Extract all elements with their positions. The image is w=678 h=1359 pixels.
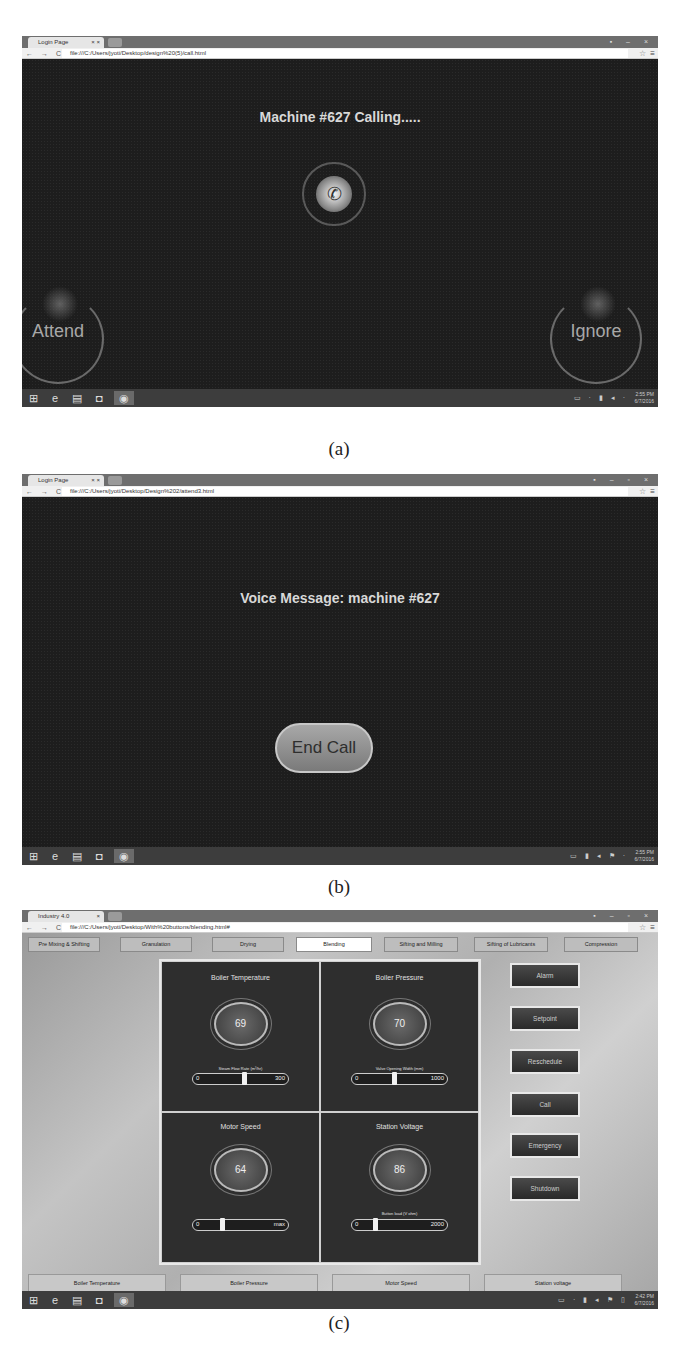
store-icon[interactable]: ◘ (92, 849, 106, 863)
voice-message-screen: Voice Message: machine #627 End Call (22, 497, 658, 847)
tab-title: Login Page (38, 477, 68, 483)
alarm-button[interactable]: Alarm (510, 963, 580, 988)
address-bar: ← → C file:///C:/Users/jyoti/Desktop/Wit… (22, 922, 658, 933)
url-input[interactable]: file:///C:/Users/jyoti/Desktop/Design%20… (62, 487, 628, 496)
ie-icon[interactable]: e (48, 849, 62, 863)
url-input[interactable]: file:///C:/Users/jyoti/Desktop/design%20… (62, 49, 628, 58)
start-icon[interactable]: ⊞ (26, 849, 40, 863)
call-title: Machine #627 Calling..... (22, 109, 658, 125)
chrome-icon[interactable]: ◉ (114, 391, 134, 405)
chrome-icon[interactable]: ◉ (114, 1293, 134, 1307)
nav-buttons[interactable]: ← → C (26, 486, 64, 497)
store-icon[interactable]: ◘ (92, 1293, 106, 1307)
browser-tab[interactable]: Login Page × × (28, 37, 104, 48)
browser-tab-bar: Login Page × × ▪ – × (22, 36, 658, 48)
tab-close-icon[interactable]: × (96, 911, 100, 922)
station-voltage-button[interactable]: Station voltage (484, 1274, 622, 1291)
store-icon[interactable]: ◘ (92, 391, 106, 405)
tab-close-icon[interactable]: × × (91, 37, 100, 48)
windows-taskbar: ⊞ e ▤ ◘ ◉ ▭ · ▮ ◂ · 2:55 PM 6/7/2016 (22, 389, 658, 407)
start-icon[interactable]: ⊞ (26, 391, 40, 405)
phone-icon: ✆ (316, 176, 352, 212)
file-explorer-icon[interactable]: ▤ (70, 391, 84, 405)
slider-min: 0 (196, 1220, 199, 1229)
call-button[interactable]: Call (510, 1092, 580, 1117)
boiler-pressure-button[interactable]: Boiler Pressure (180, 1274, 318, 1291)
clock: 2:42 PM 6/7/2016 (635, 1293, 654, 1307)
stage-tab-drying[interactable]: Drying (212, 937, 284, 952)
tab-close-icon[interactable]: × × (91, 475, 100, 486)
ignore-button[interactable]: Ignore (550, 294, 642, 384)
system-tray[interactable]: ▭ · ▮ ◂ ⚑ ▯ (558, 1291, 628, 1309)
slider-thumb[interactable] (373, 1218, 378, 1231)
stage-tab-sifting-milling[interactable]: Sifting and Milling (384, 937, 458, 952)
browser-menu-icon[interactable]: ≡ (650, 48, 655, 59)
window-controls[interactable]: ▪ – × (610, 36, 654, 48)
gauge-title: Motor Speed (162, 1123, 319, 1130)
stage-tab-compression[interactable]: Compression (564, 937, 638, 952)
attend-button[interactable]: Attend (22, 294, 104, 384)
browser-menu-icon[interactable]: ≡ (650, 922, 655, 933)
chrome-icon[interactable]: ◉ (114, 849, 134, 863)
tab-title: Login Page (38, 39, 68, 45)
window-controls[interactable]: ▪ – ▫ × (593, 910, 654, 922)
windows-taskbar: ⊞ e ▤ ◘ ◉ ▭ ▮ ◂ ⚑ · 2:55 PM 6/7/2016 (22, 847, 658, 865)
stage-tab-blending[interactable]: Blending (296, 937, 372, 952)
file-explorer-icon[interactable]: ▤ (70, 1293, 84, 1307)
call-screen: Machine #627 Calling..... ✆ Attend Ignor… (22, 59, 658, 389)
slider-max: 1000 (431, 1074, 444, 1083)
shutdown-button[interactable]: Shutdown (510, 1176, 580, 1201)
address-bar: ← → C file:///C:/Users/jyoti/Desktop/des… (22, 48, 658, 59)
setpoint-button[interactable]: Setpoint (510, 1006, 580, 1031)
system-tray[interactable]: ▭ · ▮ ◂ · (574, 389, 628, 407)
boiler-temperature-button[interactable]: Boiler Temperature (28, 1274, 166, 1291)
start-icon[interactable]: ⊞ (26, 1293, 40, 1307)
tab-title: Industry 4.0 (38, 913, 69, 919)
ie-icon[interactable]: e (48, 1293, 62, 1307)
slider-thumb[interactable] (220, 1218, 225, 1231)
url-input[interactable]: file:///C:/Users/jyoti/Desktop/With%20bu… (62, 923, 628, 932)
stage-tab-granulation[interactable]: Granulation (120, 937, 192, 952)
steam-flow-slider[interactable]: 0 300 (192, 1073, 289, 1085)
nav-buttons[interactable]: ← → C (26, 922, 64, 933)
stage-tab-pre-mixing[interactable]: Pre Mixing & Shifting (28, 937, 100, 952)
valve-opening-slider[interactable]: 0 1000 (351, 1073, 448, 1085)
caption-c: (c) (0, 1312, 678, 1334)
slider-thumb[interactable] (242, 1072, 247, 1085)
slider-thumb[interactable] (392, 1072, 397, 1085)
slider-max: 300 (275, 1074, 285, 1083)
motor-speed-button[interactable]: Motor Speed (332, 1274, 470, 1291)
gauge-station-voltage: Station Voltage 86 Button load (V ohm) 0… (320, 1112, 479, 1263)
new-tab-button[interactable] (108, 476, 122, 485)
window-controls[interactable]: ▪ – ▫ × (593, 474, 654, 486)
slider-max: 2000 (431, 1220, 444, 1229)
browser-tab[interactable]: Login Page × × (28, 475, 104, 486)
nav-buttons[interactable]: ← → C (26, 48, 64, 59)
system-tray[interactable]: ▭ ▮ ◂ ⚑ · (570, 847, 628, 865)
clock: 2:55 PM 6/7/2016 (635, 849, 654, 863)
bookmark-star-icon[interactable]: ☆ (639, 922, 646, 933)
emergency-button[interactable]: Emergency (510, 1133, 580, 1158)
reschedule-button[interactable]: Reschedule (510, 1049, 580, 1074)
voice-message-title: Voice Message: machine #627 (22, 590, 658, 606)
file-explorer-icon[interactable]: ▤ (70, 849, 84, 863)
motor-speed-slider[interactable]: 0 max (192, 1219, 289, 1231)
blending-dashboard: Pre Mixing & Shifting Granulation Drying… (22, 933, 658, 1291)
new-tab-button[interactable] (108, 912, 122, 921)
ie-icon[interactable]: e (48, 391, 62, 405)
browser-tab[interactable]: Industry 4.0 × (28, 911, 104, 922)
new-tab-button[interactable] (108, 38, 122, 47)
address-bar: ← → C file:///C:/Users/jyoti/Desktop/Des… (22, 486, 658, 497)
bookmark-star-icon[interactable]: ☆ (639, 486, 646, 497)
gauge-dial: 70 (373, 1002, 427, 1046)
gauge-title: Boiler Temperature (162, 974, 319, 981)
bookmark-star-icon[interactable]: ☆ (639, 48, 646, 59)
gauge-grid: Boiler Temperature 69 Steam Flow Rate (m… (159, 959, 481, 1265)
clock: 2:55 PM 6/7/2016 (635, 391, 654, 405)
end-call-button[interactable]: End Call (275, 723, 373, 773)
stage-tab-sifting-lubricants[interactable]: Sifting of Lubricants (474, 937, 548, 952)
button-load-slider[interactable]: 0 2000 (351, 1219, 448, 1231)
browser-menu-icon[interactable]: ≡ (650, 486, 655, 497)
caption-a: (a) (0, 438, 678, 460)
browser-tab-bar: Industry 4.0 × ▪ – ▫ × (22, 910, 658, 922)
